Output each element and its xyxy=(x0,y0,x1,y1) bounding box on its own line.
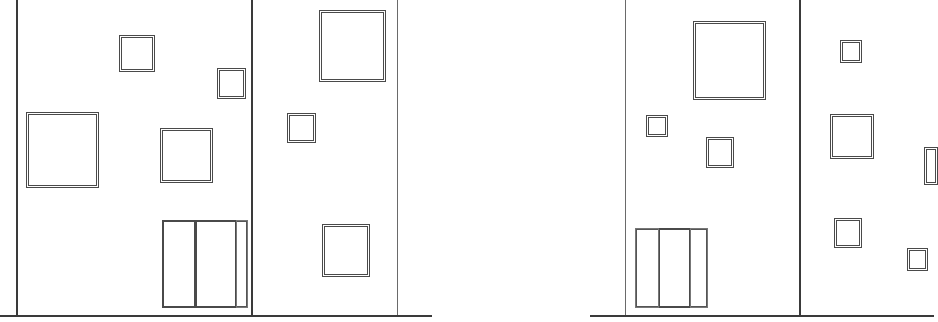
left-elevation-window xyxy=(217,68,246,99)
left-elevation-window xyxy=(322,224,370,277)
right-elevation-window xyxy=(907,248,928,271)
right-elevation-door-sidelight xyxy=(635,228,659,308)
right-elevation-left-wall xyxy=(625,0,626,315)
right-elevation-window xyxy=(693,21,766,100)
left-elevation-window xyxy=(319,10,386,82)
right-elevation-window xyxy=(840,40,862,63)
left-elevation-door-sidelight xyxy=(236,220,248,308)
right-elevation-door-panel xyxy=(658,228,691,308)
left-elevation-window xyxy=(119,35,155,72)
left-elevation-right-wall xyxy=(397,0,398,315)
left-elevation-center-wall xyxy=(251,0,253,315)
left-elevation-window xyxy=(287,113,316,143)
right-elevation-window xyxy=(834,218,862,248)
right-elevation-window xyxy=(830,114,874,159)
left-elevation-door-panel xyxy=(195,220,237,308)
left-ground-line xyxy=(0,315,432,317)
left-elevation-left-wall xyxy=(16,0,18,315)
right-ground-line xyxy=(590,315,934,317)
left-elevation-window xyxy=(26,112,99,188)
right-elevation-window xyxy=(706,137,734,168)
right-elevation-window xyxy=(924,147,938,185)
right-elevation-door-sidelight xyxy=(690,228,708,308)
left-elevation-window xyxy=(160,128,213,183)
right-elevation-center-wall xyxy=(799,0,801,315)
left-elevation-door-panel xyxy=(162,220,196,308)
right-elevation-window xyxy=(646,115,668,137)
